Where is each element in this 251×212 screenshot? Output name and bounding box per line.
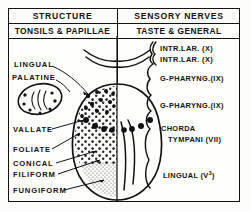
label-internal-laryngeal-1: INTR.LAR. (X) — [160, 44, 213, 53]
header-rule-1 — [8, 23, 240, 24]
label-lingual-nerve-text: LINGUAL (V — [163, 171, 209, 180]
subheader-tonsils-papillae: TONSILS & PAPILLAE — [8, 26, 117, 36]
label-glossopharyngeal-1: G-PHARYNG.(IX) — [160, 74, 224, 83]
figure-root: STRUCTURE SENSORY NERVES TONSILS & PAPIL… — [0, 0, 251, 212]
header-sensory-nerves: SENSORY NERVES — [118, 11, 240, 21]
label-filiform: FILIFORM — [13, 170, 56, 179]
label-conical: CONICAL — [13, 159, 54, 168]
label-lingual: LINGUAL — [14, 60, 54, 69]
label-glossopharyngeal-2: G-PHARYNG.(IX) — [160, 101, 224, 110]
label-chorda: CHORDA — [161, 124, 196, 133]
column-divider — [117, 8, 118, 202]
subheader-taste-general: TASTE & GENERAL — [118, 26, 240, 36]
label-vallate: VALLATE — [13, 125, 53, 134]
label-lingual-nerve: LINGUAL (V3) — [163, 170, 215, 180]
label-palatine: PALATINE — [12, 73, 56, 82]
label-lingual-nerve-sup: 3 — [209, 170, 212, 176]
label-fungiform: FUNGIFORM — [13, 186, 67, 195]
header-structure: STRUCTURE — [8, 11, 117, 21]
label-foliate: FOLIATE — [13, 145, 51, 154]
label-tympani: TYMPANI (VII) — [168, 135, 221, 144]
header-rule-2 — [8, 38, 240, 39]
label-internal-laryngeal-2: INTR.LAR. (X) — [160, 55, 213, 64]
